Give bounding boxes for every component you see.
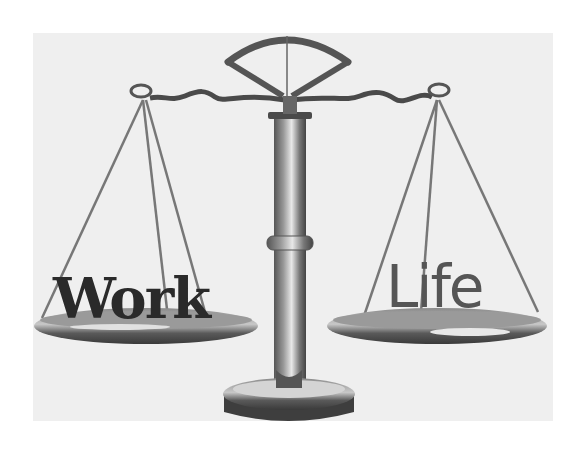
scale-base [223,370,355,421]
indicator-arc [228,36,348,100]
work-label: Work [53,270,209,326]
work-life-balance-image: Work Life [0,0,580,454]
scale-column [267,96,313,380]
life-label: Life [386,258,483,316]
balance-scale-icon [0,0,580,454]
